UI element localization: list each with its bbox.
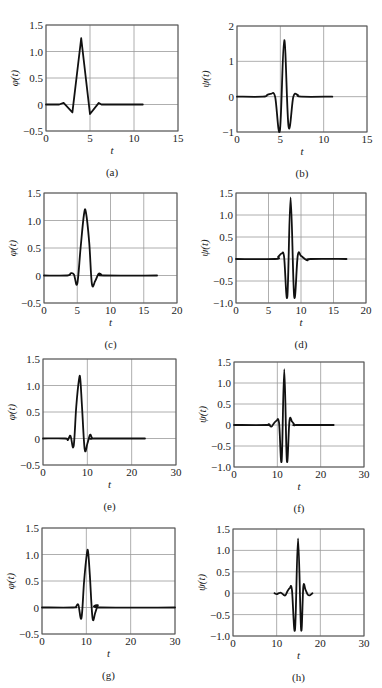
psi-curve bbox=[236, 197, 347, 298]
x-tick-label: 0 bbox=[231, 468, 237, 480]
x-tick-label: 10 bbox=[82, 466, 94, 478]
y-tick-label: 1 bbox=[229, 55, 235, 67]
y-tick-label: 1.0 bbox=[25, 549, 39, 561]
x-tick-label: 20 bbox=[126, 466, 138, 478]
x-tick-label: 15 bbox=[328, 304, 340, 316]
x-tick-label: 0 bbox=[39, 635, 45, 647]
y-tick-label: −0.5 bbox=[213, 275, 233, 287]
phi-curve bbox=[43, 376, 145, 452]
y-tick-label: 0.5 bbox=[27, 242, 41, 254]
subplot-caption: (a) bbox=[106, 166, 119, 179]
subplot-f: 0102030−1.0−0.500.51.01.5tψ(t)(f) bbox=[196, 356, 370, 515]
x-axis-label: t bbox=[299, 316, 303, 328]
x-tick-label: 10 bbox=[272, 468, 284, 480]
x-tick-label: 20 bbox=[315, 468, 327, 480]
x-tick-label: 5 bbox=[278, 133, 284, 145]
y-axis-label: φ(t) bbox=[4, 572, 17, 589]
subplot-caption: (b) bbox=[296, 167, 309, 180]
y-tick-label: 1.5 bbox=[216, 523, 230, 535]
plot-frame bbox=[237, 26, 367, 132]
subplot-d: 05101520−1.0−0.500.51.01.5tψ(t)(d) bbox=[198, 187, 372, 351]
subplot-caption: (f) bbox=[294, 502, 305, 515]
gridlines bbox=[236, 193, 366, 303]
y-tick-label: 0.5 bbox=[216, 566, 230, 578]
phi-curve bbox=[46, 38, 143, 114]
x-tick-label: 20 bbox=[172, 304, 184, 316]
y-tick-label: 0 bbox=[225, 587, 231, 599]
x-tick-label: 0 bbox=[41, 304, 47, 316]
y-axis-label: ψ(t) bbox=[196, 406, 209, 424]
subplot-h: 0102030−1.0−0.500.51.01.5tψ(t)(h) bbox=[195, 523, 370, 684]
y-tick-label: 0.5 bbox=[25, 575, 39, 587]
x-axis-label: t bbox=[109, 316, 113, 328]
y-tick-label: 1.5 bbox=[217, 356, 231, 368]
x-axis-label: t bbox=[297, 649, 301, 661]
y-tick-label: −1.0 bbox=[210, 630, 230, 642]
y-tick-label: −0.5 bbox=[19, 628, 39, 640]
x-axis-label: t bbox=[107, 647, 111, 659]
x-axis-label: t bbox=[297, 480, 301, 492]
x-axis-label: t bbox=[110, 144, 114, 156]
x-axis-label: t bbox=[300, 145, 304, 157]
gridlines bbox=[43, 359, 176, 465]
y-tick-label: 1.5 bbox=[29, 19, 43, 31]
subplot-a: 051015−0.500.51.01.5tφ(t)(a) bbox=[8, 19, 184, 179]
y-tick-label: 1.0 bbox=[27, 215, 41, 227]
x-tick-label: 20 bbox=[125, 635, 137, 647]
y-axis-label: ψ(t) bbox=[195, 574, 208, 592]
psi-curve bbox=[274, 538, 312, 630]
y-tick-label: 0 bbox=[34, 602, 40, 614]
subplot-b: 051015−1012tψ(t)(b) bbox=[199, 20, 373, 180]
y-axis-label: φ(t) bbox=[6, 239, 19, 256]
x-tick-label: 20 bbox=[315, 637, 327, 649]
x-tick-label: 30 bbox=[171, 466, 183, 478]
y-tick-label: −0.5 bbox=[210, 609, 230, 621]
subplot-e: 0102030−0.500.51.01.5tφ(t)(e) bbox=[5, 353, 182, 513]
phi-curve bbox=[42, 550, 175, 621]
y-tick-label: 1.5 bbox=[219, 187, 233, 199]
subplot-caption: (g) bbox=[102, 669, 115, 682]
y-tick-label: −0.5 bbox=[21, 297, 41, 309]
y-axis-label: ψ(t) bbox=[198, 239, 211, 257]
y-tick-label: −1 bbox=[222, 126, 234, 138]
x-tick-label: 10 bbox=[271, 637, 283, 649]
y-tick-label: 1.5 bbox=[26, 353, 40, 365]
y-tick-label: 1.0 bbox=[217, 377, 231, 389]
gridlines bbox=[234, 362, 364, 467]
y-tick-label: 2 bbox=[229, 20, 235, 32]
subplot-caption: (h) bbox=[292, 671, 305, 684]
x-tick-label: 10 bbox=[296, 304, 308, 316]
y-tick-label: −1.0 bbox=[211, 461, 231, 473]
x-tick-label: 0 bbox=[40, 466, 46, 478]
y-tick-label: −1.0 bbox=[213, 297, 233, 309]
y-tick-label: 1.0 bbox=[26, 380, 40, 392]
figure: 051015−0.500.51.01.5tφ(t)(a)051015−1012t… bbox=[0, 0, 382, 688]
y-tick-label: 0 bbox=[36, 270, 42, 282]
x-tick-label: 5 bbox=[87, 132, 93, 144]
y-tick-label: 0 bbox=[226, 419, 232, 431]
x-tick-label: 5 bbox=[266, 304, 272, 316]
y-tick-label: 1.5 bbox=[25, 522, 39, 534]
x-tick-label: 30 bbox=[170, 635, 182, 647]
y-tick-label: 0 bbox=[229, 91, 235, 103]
y-tick-label: −0.5 bbox=[211, 440, 231, 452]
x-tick-label: 20 bbox=[361, 304, 373, 316]
x-tick-label: 15 bbox=[362, 133, 374, 145]
subplot-caption: (c) bbox=[104, 338, 117, 351]
x-tick-label: 10 bbox=[318, 133, 330, 145]
x-axis-label: t bbox=[108, 478, 112, 490]
x-tick-label: 15 bbox=[173, 132, 185, 144]
subplot-caption: (d) bbox=[295, 338, 308, 351]
y-tick-label: −0.5 bbox=[23, 125, 43, 137]
y-tick-label: −0.5 bbox=[20, 459, 40, 471]
figure-canvas: 051015−0.500.51.01.5tφ(t)(a)051015−1012t… bbox=[0, 0, 382, 688]
x-tick-label: 10 bbox=[105, 304, 117, 316]
y-tick-label: 1.0 bbox=[29, 46, 43, 58]
x-tick-label: 0 bbox=[233, 304, 239, 316]
plot-frame bbox=[234, 362, 364, 467]
x-tick-label: 0 bbox=[43, 132, 49, 144]
x-tick-label: 0 bbox=[234, 133, 240, 145]
x-tick-label: 5 bbox=[75, 304, 81, 316]
y-axis-label: ψ(t) bbox=[199, 70, 212, 88]
x-tick-label: 10 bbox=[129, 132, 141, 144]
